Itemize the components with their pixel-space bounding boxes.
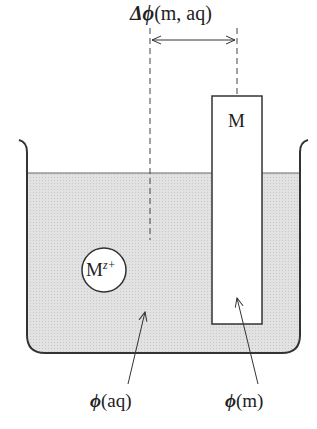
ion-base: M <box>86 259 103 280</box>
metal-potential-label: ϕ(m) <box>225 390 263 412</box>
delta-phi-symbol: Δϕ <box>130 2 154 24</box>
ion-charge: z+ <box>103 258 116 272</box>
ion-label: Mz+ <box>86 258 116 281</box>
delta-phi-args: (m, aq) <box>154 2 212 24</box>
solution-potential-label: ϕ(aq) <box>90 390 132 412</box>
phi-aq-args: (aq) <box>101 390 132 411</box>
phi-m-symbol: ϕ <box>225 390 236 411</box>
electrode-label: M <box>228 110 245 132</box>
phi-m-args: (m) <box>236 390 263 411</box>
phi-aq-symbol: ϕ <box>90 390 101 411</box>
electrode-diagram <box>0 0 317 429</box>
potential-difference-label: Δϕ(m, aq) <box>130 2 212 25</box>
